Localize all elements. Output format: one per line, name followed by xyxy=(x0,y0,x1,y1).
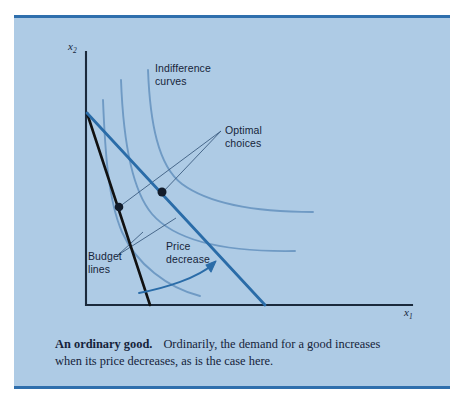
figure-root: x2 x1 Indifference curves Optimal choice… xyxy=(0,0,464,409)
indifference-curve-2 xyxy=(121,80,295,251)
y-axis-label: x2 xyxy=(68,40,77,55)
leader-optimal-2 xyxy=(162,131,221,193)
price-decrease-label: Price decrease xyxy=(166,240,210,265)
optimal-choices-label: Optimal choices xyxy=(225,124,262,149)
figure-caption: An ordinary good.Ordinarily, the demand … xyxy=(55,336,410,369)
leader-optimal-1 xyxy=(119,131,221,207)
optimal-choice-dot-initial xyxy=(115,203,124,212)
optimal-choice-dot-after xyxy=(158,188,167,197)
x-axis-label: x1 xyxy=(404,306,413,321)
budget-lines-label: Budget lines xyxy=(88,250,122,275)
indifference-curves-label: Indifference curves xyxy=(155,62,211,87)
caption-title: An ordinary good. xyxy=(55,337,152,351)
